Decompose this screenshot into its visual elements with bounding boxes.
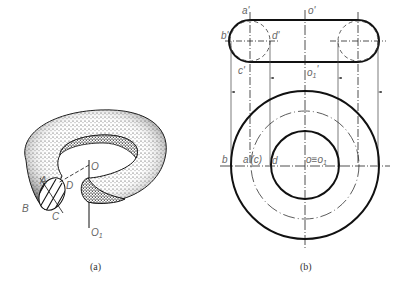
label-d-prime: d' [272,30,281,41]
label-d: d [272,155,278,166]
label-b: b [222,154,228,165]
torus-figure: A B C D O O1 (a) [22,110,166,273]
label-o1-prime: o1' [307,64,319,79]
caption-b: (b) [300,261,312,273]
diagram-canvas: A B C D O O1 (a) a [0,0,395,285]
label-O1: O1 [91,227,103,239]
label-a-c: a'(c) [243,154,262,165]
label-o-prime: o' [308,5,317,16]
caption-a: (a) [90,261,101,273]
label-O: O [91,161,99,172]
label-c-prime: c' [238,65,246,76]
label-D: D [66,180,73,191]
label-o-o1: o≡o1 [306,154,327,166]
label-A: A [39,175,47,186]
label-b-prime: b' [221,30,230,41]
label-a-prime: a' [242,5,251,16]
label-C: C [52,211,60,222]
projection-figure: a' o' b' d' c' o1' b a'(c) d o≡o1 (b) [220,5,390,273]
label-B: B [22,203,29,214]
